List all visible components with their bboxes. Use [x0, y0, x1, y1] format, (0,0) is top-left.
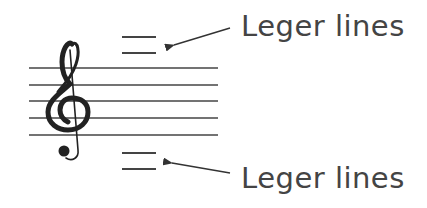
arrow-bottom-icon — [172, 163, 230, 173]
label-leger-lines-top: Leger lines — [241, 12, 405, 41]
leger-lines-top — [122, 37, 156, 53]
label-leger-lines-bottom: Leger lines — [241, 164, 405, 193]
arrow-top-icon — [174, 28, 230, 45]
leger-lines-bottom — [122, 153, 156, 169]
leger-lines-diagram: Leger lines Leger lines — [0, 0, 427, 208]
